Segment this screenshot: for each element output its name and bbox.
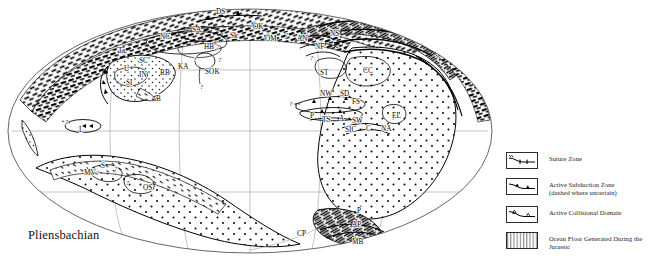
suture-zone-symbol (506, 152, 538, 169)
figure-root: DSSASkOKOM?ANNFNSNCHB???SOK?KATaSCURBINS… (0, 0, 661, 264)
legend-entry-suture-zone: Suture Zone (506, 152, 658, 169)
legend-entry-active-subduction-zone: Active Subduction Zone (dashed where unc… (506, 178, 658, 198)
paleogeographic-map: DSSASkOKOM?ANNFNSNCHB???SOK?KATaSCURBINS… (0, 0, 500, 264)
stage-title: Pliensbachian (28, 228, 99, 243)
legend-label-text: Active Collisional Domain (549, 209, 621, 216)
active-collisional-domain-symbol (506, 206, 538, 223)
legend-entry-active-collisional-domain: Active Collisional Domain (506, 206, 658, 223)
legend-label-text: Ocean Floor Generated During the Jurassi… (549, 235, 642, 250)
legend-label-active-collisional-domain: Active Collisional Domain (549, 206, 621, 217)
legend-label-jurassic-ocean-floor: Ocean Floor Generated During the Jurassi… (549, 232, 658, 252)
legend-label-text: Active Subduction Zone (549, 181, 615, 188)
legend: Suture Zone Active Subduction Zone (dash… (506, 152, 658, 256)
legend-label-active-subduction-zone: Active Subduction Zone (dashed where unc… (549, 178, 617, 198)
jurassic-ocean-floor-symbol (506, 232, 538, 249)
map-canvas (0, 0, 500, 264)
legend-sublabel-text: (dashed where uncertain) (549, 189, 617, 197)
legend-label-text: Suture Zone (549, 155, 582, 162)
active-subduction-zone-symbol (506, 178, 538, 195)
legend-label-suture-zone: Suture Zone (549, 152, 582, 163)
legend-entry-jurassic-ocean-floor: Ocean Floor Generated During the Jurassi… (506, 232, 658, 252)
